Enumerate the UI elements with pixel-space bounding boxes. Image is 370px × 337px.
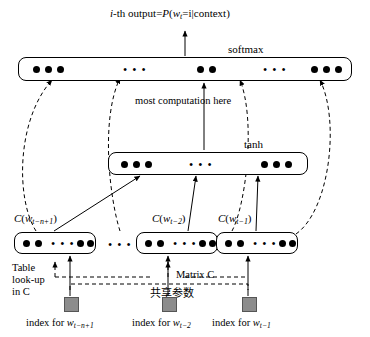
neuron-dot: [335, 66, 342, 73]
neuron-dot: [57, 66, 64, 73]
embedding-vector-2: • • •: [136, 232, 218, 254]
neuron-dot: [273, 161, 280, 168]
softmax-ellipsis-left: • • •: [123, 63, 147, 78]
neuron-dot: [285, 161, 292, 168]
embed2-paren-close: ): [182, 212, 186, 224]
neuron-dot: [45, 66, 52, 73]
neuron-dot: [87, 240, 94, 247]
title-equals-i: =i: [182, 7, 191, 19]
index2-w: w: [173, 317, 180, 328]
index-square-1: [64, 297, 79, 312]
neuron-dot: [157, 240, 164, 247]
embed3-paren-close: ): [248, 212, 252, 224]
index2-sub: t−2: [180, 321, 191, 330]
index-caption-1: index for wt−n+1: [26, 318, 94, 329]
figure-title: i-th output=P(wt=i|context): [110, 8, 230, 21]
index-caption-2: index for wt−2: [132, 318, 191, 329]
embed1-to-tanh-arrow: [54, 176, 140, 231]
neuron-dot: [311, 66, 318, 73]
neuron-dot: [33, 66, 40, 73]
tanh-layer: • • •: [108, 152, 308, 175]
table-lookup-label: Table look-up in C: [12, 262, 45, 297]
neuron-dot: [279, 240, 286, 247]
tanh-ellipsis: • • •: [189, 158, 213, 173]
embed1-paren-close: ): [53, 212, 57, 224]
neuron-dot: [23, 240, 30, 247]
embedding-vector-1: • • •: [14, 232, 96, 254]
table-lookup-line-2: look-up: [12, 274, 45, 286]
softmax-label: softmax: [228, 44, 263, 55]
neuron-dot: [133, 161, 140, 168]
title-context: |context: [192, 7, 227, 19]
neuron-dot: [323, 66, 330, 73]
embed1-sub: t−n+1: [32, 217, 53, 226]
index-square-2: [162, 297, 177, 312]
embed3-to-tanh-arrow: [256, 176, 258, 231]
embed3-ellipsis: • • •: [253, 237, 277, 252]
title-output-word: -th output=: [113, 7, 162, 19]
softmax-ellipsis-right: • • •: [263, 63, 287, 78]
index3-w: w: [253, 317, 260, 328]
title-w-symbol: w: [173, 7, 180, 19]
figure-canvas: i-th output=P(wt=i|context) softmax • • …: [0, 0, 370, 337]
embed2-to-tanh-arrow: [188, 176, 196, 231]
neuron-dot: [209, 240, 216, 247]
neuron-dot: [209, 66, 216, 73]
matrix-c-label: Matrix C: [176, 270, 214, 281]
neuron-dot: [289, 240, 296, 247]
neuron-dot: [121, 161, 128, 168]
embedding-label-1: C(wt−n+1): [14, 213, 57, 226]
embed3-sub: t−1: [236, 217, 248, 226]
embed1-ellipsis: • • •: [51, 237, 75, 252]
neuron-dot: [237, 240, 244, 247]
table-lookup-line-3: in C: [12, 286, 45, 298]
neuron-dot: [35, 240, 42, 247]
embedding-label-2: C(wt−2): [152, 213, 186, 226]
embedding-vector-3: • • •: [216, 232, 298, 254]
index1-prefix: index for: [26, 317, 67, 328]
skip-connection-left: [23, 80, 52, 231]
embedding-label-3: C(wt−1): [218, 213, 252, 226]
index-square-3: [242, 297, 257, 312]
neuron-dot: [199, 240, 206, 247]
title-paren-close: ): [226, 7, 230, 19]
index-caption-3: index for wt−1: [212, 318, 271, 329]
index2-prefix: index for: [132, 317, 173, 328]
embed2-sub: t−2: [170, 217, 182, 226]
embed2-ellipsis: • • •: [173, 237, 197, 252]
tanh-label: tanh: [244, 139, 263, 150]
neuron-dot: [197, 66, 204, 73]
neuron-dot: [145, 161, 152, 168]
index3-prefix: index for: [212, 317, 253, 328]
neuron-dot: [77, 240, 84, 247]
neuron-dot: [225, 240, 232, 247]
table-lookup-line-1: Table: [12, 262, 45, 274]
index1-w: w: [67, 317, 74, 328]
most-computation-label: most computation here: [135, 96, 231, 107]
index1-sub: t−n+1: [74, 321, 94, 330]
neuron-dot: [145, 240, 152, 247]
neuron-dot: [261, 161, 268, 168]
embedding-row-ellipsis: • • •: [108, 238, 132, 253]
index3-sub: t−1: [260, 321, 271, 330]
matrix-c-text: Matrix C: [176, 269, 214, 280]
softmax-layer: • • • • • •: [18, 57, 352, 81]
